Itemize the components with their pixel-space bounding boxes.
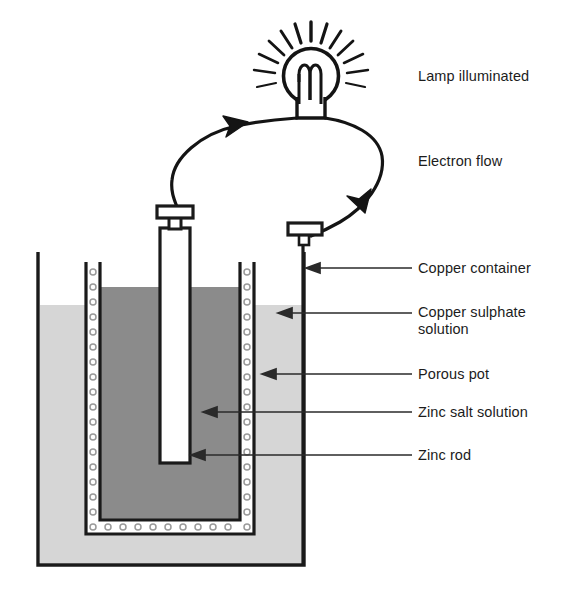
leader-arrow-copper-container: [306, 263, 320, 273]
label-electron-flow: Electron flow: [418, 153, 502, 170]
label-zinc-rod: Zinc rod: [418, 447, 471, 464]
label-copper-sulphate-solution: Copper sulphate solution: [418, 304, 526, 338]
wire-left: [172, 118, 297, 216]
electrochemical-cell-diagram: Lamp illuminated Electron flow Copper co…: [0, 0, 584, 602]
lamp-bulb-icon: [254, 22, 368, 118]
label-lamp-illuminated: Lamp illuminated: [418, 68, 529, 85]
label-copper-container: Copper container: [418, 260, 531, 277]
label-porous-pot: Porous pot: [418, 366, 489, 383]
diagram-canvas: [0, 0, 584, 602]
electron-flow-arrow-left-icon: [223, 116, 248, 137]
wire-right: [311, 118, 382, 236]
zinc-terminal-clamp-icon: [157, 206, 193, 218]
label-zinc-salt-solution: Zinc salt solution: [418, 404, 528, 421]
zinc-rod: [160, 228, 190, 463]
copper-terminal-clamp-icon: [288, 223, 322, 235]
